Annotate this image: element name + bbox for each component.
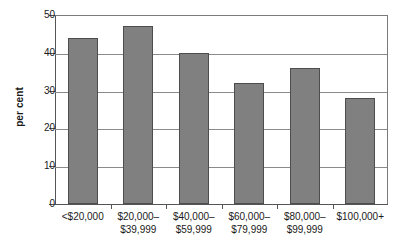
y-tick-label: 50 <box>9 10 55 20</box>
x-tick-mark <box>166 204 167 209</box>
y-tick-label: 40 <box>9 48 55 58</box>
y-axis-title: per cent <box>14 62 28 152</box>
x-tick-mark <box>277 204 278 209</box>
x-tick-mark <box>111 204 112 209</box>
bar-slot <box>111 15 167 204</box>
bar <box>345 98 375 204</box>
y-tick-label: 0 <box>9 199 55 209</box>
x-tick-mark <box>333 204 334 209</box>
bar <box>179 53 209 204</box>
x-axis-label: $100,000+ <box>325 211 395 224</box>
y-tick-label: 30 <box>9 86 55 96</box>
bar <box>290 68 320 204</box>
bars-layer <box>55 15 388 204</box>
bar-slot <box>333 15 389 204</box>
bar-slot <box>277 15 333 204</box>
y-tick-label: 10 <box>9 161 55 171</box>
bar-chart: per cent 01020304050 <$20,000$20,000– $3… <box>0 0 407 246</box>
bar-slot <box>166 15 222 204</box>
bar <box>123 26 153 204</box>
bar-slot <box>222 15 278 204</box>
y-tick-label: 20 <box>9 123 55 133</box>
bar <box>234 83 264 204</box>
bar <box>68 38 98 204</box>
x-tick-mark <box>222 204 223 209</box>
bar-slot <box>55 15 111 204</box>
